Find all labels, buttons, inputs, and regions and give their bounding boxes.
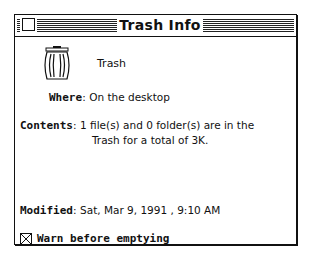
- warn-label[interactable]: Warn before emptying: [37, 232, 169, 245]
- title-bar-stripes-right: [203, 19, 294, 32]
- modified-value: Sat, Mar 9, 1991 , 9:10 AM: [80, 204, 220, 216]
- separator: :: [73, 119, 77, 131]
- close-box[interactable]: [22, 18, 35, 31]
- contents-label: Contents: [20, 119, 73, 132]
- checkmark-x-icon: [21, 234, 31, 244]
- where-label: Where: [49, 91, 82, 104]
- contents-value-line1: 1 file(s) and 0 folder(s) are in the: [80, 119, 254, 131]
- warn-checkbox[interactable]: [20, 233, 32, 245]
- modified-label: Modified: [20, 204, 73, 217]
- item-name: Trash: [97, 57, 126, 70]
- warn-before-emptying-option[interactable]: Warn before emptying: [20, 232, 169, 245]
- where-value: On the desktop: [89, 91, 170, 103]
- info-content: Trash Where: On the desktop Contents: 1 …: [15, 37, 296, 244]
- title-bar[interactable]: Trash Info: [15, 15, 296, 37]
- contents-row: Contents: 1 file(s) and 0 folder(s) are …: [20, 118, 254, 133]
- modified-row: Modified: Sat, Mar 9, 1991 , 9:10 AM: [20, 203, 220, 218]
- contents-value-line2: Trash for a total of 3K.: [92, 133, 208, 148]
- trash-can-icon: [43, 45, 71, 81]
- window-title: Trash Info: [117, 16, 203, 34]
- trash-info-window: Trash Info Trash Where: On the desktop C…: [14, 14, 297, 245]
- where-row: Where: On the desktop: [49, 90, 170, 105]
- separator: :: [73, 204, 77, 216]
- separator: :: [82, 91, 86, 103]
